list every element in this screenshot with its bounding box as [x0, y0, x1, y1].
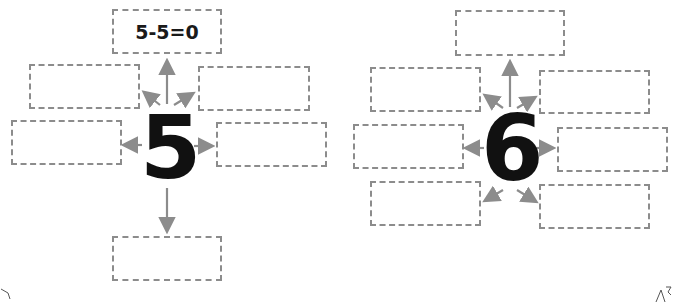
answer-box-right[interactable]: [216, 122, 327, 167]
answer-box-upper-right[interactable]: [198, 66, 310, 111]
answer-box-left[interactable]: [353, 124, 464, 169]
answer-box-lower-left[interactable]: [370, 181, 481, 226]
answer-box-upper-left[interactable]: [29, 64, 140, 109]
answer-box-left[interactable]: [11, 120, 122, 165]
corner-scribble-icon: [655, 283, 673, 303]
center-number-five: 5: [140, 104, 199, 192]
center-number-six: 6: [481, 104, 542, 194]
answer-box-top[interactable]: [455, 10, 565, 56]
corner-scribble-icon: [0, 285, 14, 303]
answer-box-top[interactable]: 5-5=0: [112, 9, 222, 54]
answer-box-lower-right[interactable]: [539, 184, 650, 229]
answer-box-right[interactable]: [557, 127, 668, 172]
equation-text: 5-5=0: [135, 21, 198, 43]
answer-box-upper-right[interactable]: [539, 70, 650, 114]
answer-box-bottom[interactable]: [112, 236, 222, 281]
answer-box-upper-left[interactable]: [370, 67, 481, 112]
